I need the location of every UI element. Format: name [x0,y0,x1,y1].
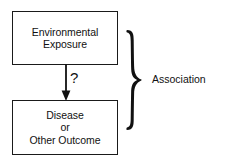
association-label: Association [152,73,206,85]
outcome-line-2: or [60,121,69,134]
question-mark-label: ? [70,70,78,85]
environmental-exposure-line-1: Environmental [32,26,98,39]
environmental-exposure-box: Environmental Exposure [12,11,118,65]
environmental-exposure-line-2: Exposure [43,38,87,51]
outcome-line-1: Disease [46,109,84,122]
disease-or-other-outcome-box: Disease or Other Outcome [12,100,118,155]
diagram-canvas: Environmental Exposure ? Association Dis… [0,0,236,163]
outcome-line-3: Other Outcome [29,134,100,147]
right-curly-brace-icon [124,28,144,132]
